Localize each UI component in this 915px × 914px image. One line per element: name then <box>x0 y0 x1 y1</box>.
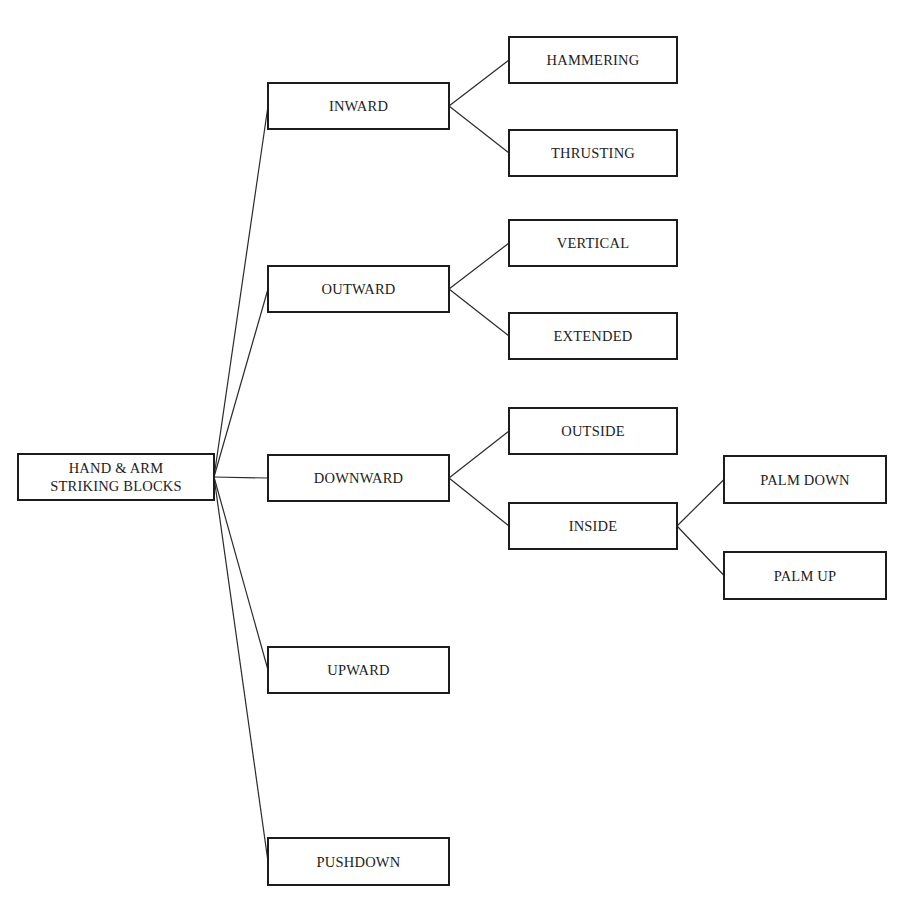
connector-inside-to-palm-up <box>677 526 724 576</box>
connector-inside-to-palm-down <box>677 480 724 527</box>
node-label: UPWARD <box>327 661 389 679</box>
node-label: PALM UP <box>774 567 837 585</box>
node-inside: INSIDE <box>508 502 678 550</box>
node-upward: UPWARD <box>267 646 450 694</box>
node-palm-up: PALM UP <box>723 551 887 600</box>
node-extended: EXTENDED <box>508 312 678 360</box>
node-label: OUTSIDE <box>561 422 624 440</box>
node-label: EXTENDED <box>554 327 633 345</box>
node-label: INSIDE <box>569 517 618 535</box>
tree-diagram: HAND & ARM STRIKING BLOCKS INWARD OUTWAR… <box>0 0 915 914</box>
node-downward: DOWNWARD <box>267 454 450 502</box>
node-label: THRUSTING <box>551 144 635 162</box>
connector-outward-to-extended <box>449 289 509 336</box>
node-outside: OUTSIDE <box>508 407 678 455</box>
node-label: HAMMERING <box>547 51 640 69</box>
node-thrusting: THRUSTING <box>508 129 678 177</box>
node-label: PALM DOWN <box>760 471 849 489</box>
node-label: HAND & ARM STRIKING BLOCKS <box>50 459 182 495</box>
node-pushdown: PUSHDOWN <box>267 837 450 886</box>
node-label: VERTICAL <box>557 234 629 252</box>
node-palm-down: PALM DOWN <box>723 455 887 504</box>
connector-downward-to-outside <box>449 431 509 478</box>
node-hammering: HAMMERING <box>508 36 678 84</box>
connector-root-to-downward <box>214 477 268 478</box>
connector-root-to-upward <box>214 477 268 670</box>
connector-root-to-outward <box>214 289 268 477</box>
node-label: OUTWARD <box>322 280 396 298</box>
connector-downward-to-inside <box>449 478 509 526</box>
node-outward: OUTWARD <box>267 265 450 313</box>
node-label: DOWNWARD <box>314 469 403 487</box>
node-root-hand-arm-striking-blocks: HAND & ARM STRIKING BLOCKS <box>17 453 215 501</box>
connector-outward-to-vertical <box>449 243 509 289</box>
node-inward: INWARD <box>267 82 450 130</box>
node-vertical: VERTICAL <box>508 219 678 267</box>
node-label: INWARD <box>329 97 388 115</box>
connector-inward-to-thrusting <box>449 106 509 153</box>
connector-root-to-inward <box>214 106 268 477</box>
connector-root-to-pushdown <box>214 477 268 862</box>
connector-inward-to-hammering <box>449 60 509 106</box>
node-label: PUSHDOWN <box>317 853 401 871</box>
